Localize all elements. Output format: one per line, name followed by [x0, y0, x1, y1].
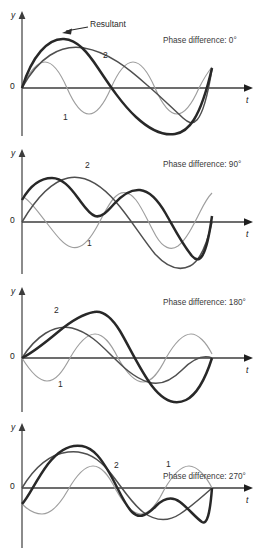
wave-1-label: 1	[87, 238, 92, 248]
origin-label: 0	[10, 215, 15, 225]
origin-label: 0	[10, 481, 15, 491]
wave-plot-phase-0	[0, 0, 269, 138]
phase-difference-label-90: Phase difference: 90°	[163, 160, 241, 169]
t-axis-label: t	[246, 229, 248, 239]
axes-phase-270	[19, 423, 253, 548]
y-axis-label: y	[11, 286, 15, 296]
y-axis-label: y	[11, 10, 15, 20]
wave-2-curve	[22, 177, 212, 268]
wave-1-label: 1	[63, 112, 68, 122]
phase-difference-label-180: Phase difference: 180°	[163, 298, 246, 307]
wave-1-label: 1	[58, 379, 63, 389]
resultant-annotation-label: Resultant	[90, 19, 126, 29]
wave-panel-phase-90: y 0 t 2 1 Phase difference: 90°	[0, 138, 269, 276]
wave-plot-phase-90	[0, 138, 269, 276]
wave-2-label: 2	[114, 460, 119, 470]
t-axis-label: t	[246, 365, 248, 375]
wave-2-label: 2	[103, 50, 108, 60]
y-axis-label: y	[11, 422, 15, 432]
y-axis-arrowhead	[19, 423, 26, 431]
wave-1-label: 1	[166, 459, 171, 469]
y-axis-arrowhead	[19, 11, 26, 19]
origin-label: 0	[10, 351, 15, 361]
phase-difference-label-270: Phase difference: 270°	[163, 472, 246, 481]
wave-panel-phase-0: y 0 t Resultant 2 1 Phase difference: 0°	[0, 0, 269, 138]
resultant-curve	[22, 39, 212, 134]
wave-2-label: 2	[54, 305, 59, 315]
origin-label: 0	[10, 81, 15, 91]
t-axis-arrowhead	[244, 218, 253, 226]
wave-plot-phase-270	[0, 414, 269, 552]
t-axis-arrowhead	[244, 484, 253, 492]
y-axis-arrowhead	[19, 149, 26, 157]
wave-2-label: 2	[85, 160, 90, 170]
phase-difference-label-0: Phase difference: 0°	[163, 36, 237, 45]
t-axis-label: t	[246, 95, 248, 105]
y-axis-label: y	[11, 148, 15, 158]
t-axis-arrowhead	[244, 354, 253, 362]
t-axis-label: t	[246, 495, 248, 505]
wave-panel-phase-270: y 0 t 2 1 Phase difference: 270°	[0, 414, 269, 552]
wave-plot-phase-180	[0, 276, 269, 414]
resultant-curve	[22, 178, 212, 259]
y-axis-arrowhead	[19, 287, 26, 295]
wave-panel-phase-180: y 0 t 2 1 Phase difference: 180°	[0, 276, 269, 414]
t-axis-arrowhead	[244, 84, 253, 92]
resultant-arrowhead-icon	[62, 29, 72, 35]
